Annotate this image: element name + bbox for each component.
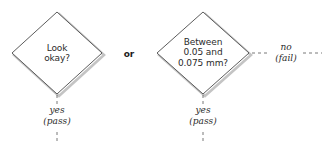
decision-between-tolerance-line-2: 0.05 and	[157, 47, 249, 57]
edge-label-no-fail-line-2: (fail)	[256, 53, 316, 64]
decision-look-okay-line-2: okay?	[12, 53, 102, 63]
edge-label-no-fail: no (fail)	[256, 42, 316, 63]
decision-look-okay-line-1: Look	[12, 43, 102, 53]
decision-look-okay-label: Look okay?	[12, 43, 102, 64]
decision-between-tolerance-label: Between 0.05 and 0.075 mm?	[157, 37, 249, 68]
edge-label-yes-pass-left-line-1: yes	[27, 105, 87, 116]
diagram-canvas: Look okay? Between 0.05 and 0.075 mm? or…	[0, 0, 327, 145]
decision-between-tolerance-line-3: 0.075 mm?	[157, 58, 249, 68]
edge-label-yes-pass-left: yes (pass)	[27, 105, 87, 126]
edge-label-yes-pass-right-line-2: (pass)	[173, 116, 233, 127]
edge-label-yes-pass-right-line-1: yes	[173, 105, 233, 116]
edge-label-yes-pass-left-line-2: (pass)	[27, 116, 87, 127]
edge-label-yes-pass-right: yes (pass)	[173, 105, 233, 126]
edge-label-no-fail-line-1: no	[256, 42, 316, 53]
conjunction-or-label: or	[113, 49, 145, 59]
decision-between-tolerance-line-1: Between	[157, 37, 249, 47]
